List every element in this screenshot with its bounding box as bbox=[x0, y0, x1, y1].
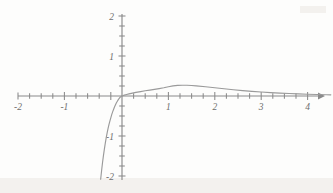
scan-artifact-bottom bbox=[0, 178, 333, 193]
x-tick-label: -1 bbox=[60, 102, 68, 112]
scan-artifact-top-right bbox=[300, 6, 326, 13]
x-tick-label: 3 bbox=[258, 102, 264, 112]
x-tick-label: 2 bbox=[212, 102, 217, 112]
x-tick-label-group: -2 -1 1 2 3 4 bbox=[14, 102, 310, 112]
y-tick-label: 1 bbox=[109, 52, 114, 62]
x-tick-label: -2 bbox=[14, 102, 22, 112]
x-tick-label: 1 bbox=[166, 102, 171, 112]
data-curve bbox=[101, 85, 331, 179]
chart-figure: -2 -1 1 2 3 4 -2 -1 1 2 bbox=[0, 0, 333, 193]
y-tick-label: -2 bbox=[106, 172, 114, 182]
x-tick-label: 4 bbox=[305, 102, 310, 112]
x-axis-arrow-icon bbox=[318, 93, 325, 100]
function-plot: -2 -1 1 2 3 4 -2 -1 1 2 bbox=[0, 0, 333, 193]
y-tick-label: 2 bbox=[109, 12, 114, 22]
